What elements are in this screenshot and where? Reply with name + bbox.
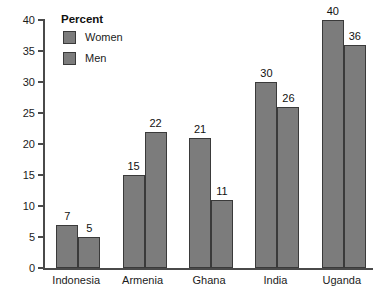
- x-axis-label: Armenia: [109, 274, 175, 286]
- bar-value-label: 5: [70, 222, 108, 235]
- bar: [78, 237, 100, 268]
- bar-group: 3026: [255, 20, 299, 268]
- legend-title: Percent: [61, 12, 123, 26]
- legend-item-women: Women: [61, 30, 123, 45]
- legend: Percent Women Men: [61, 12, 123, 72]
- legend-swatch-men: [63, 52, 76, 65]
- bar-chart: 0510152025303540 751522211130264036 Indo…: [0, 0, 389, 301]
- x-axis-label: Uganda: [309, 274, 375, 286]
- bar-value-label: 26: [269, 92, 307, 105]
- bar: [344, 45, 366, 268]
- bar: [123, 175, 145, 268]
- y-axis-tick-label: 5: [29, 229, 35, 245]
- y-axis-tick-label: 25: [23, 105, 35, 121]
- bar-value-label: 30: [247, 67, 285, 80]
- bar: [211, 200, 233, 268]
- bar-value-label: 40: [314, 5, 352, 18]
- bar-group: 4036: [322, 20, 366, 268]
- bar: [277, 107, 299, 268]
- y-axis-tick-label: 35: [23, 43, 35, 59]
- y-axis-tick-label: 10: [23, 198, 35, 214]
- legend-swatch-women: [63, 31, 76, 44]
- x-axis-label: India: [242, 274, 308, 286]
- bar-value-label: 7: [48, 210, 86, 223]
- bar-group: 2111: [189, 20, 233, 268]
- legend-item-men: Men: [61, 51, 123, 66]
- y-axis-tick-label: 30: [23, 74, 35, 90]
- bar-value-label: 21: [181, 123, 219, 136]
- x-axis-label: Indonesia: [43, 274, 109, 286]
- y-axis-tick-label: 40: [23, 12, 35, 28]
- legend-label-women: Women: [85, 31, 123, 44]
- bar-value-label: 36: [336, 30, 374, 43]
- bar-group: 1522: [123, 20, 167, 268]
- x-axis-line: [43, 268, 373, 270]
- y-axis-tick-label: 0: [29, 260, 35, 276]
- bar-value-label: 11: [203, 185, 241, 198]
- legend-label-men: Men: [85, 52, 106, 65]
- bar-value-label: 22: [137, 117, 175, 130]
- x-axis-label: Ghana: [176, 274, 242, 286]
- bar: [189, 138, 211, 268]
- bar: [255, 82, 277, 268]
- bar: [322, 20, 344, 268]
- y-axis-tick-label: 15: [23, 167, 35, 183]
- bar: [145, 132, 167, 268]
- y-axis-tick-label: 20: [23, 136, 35, 152]
